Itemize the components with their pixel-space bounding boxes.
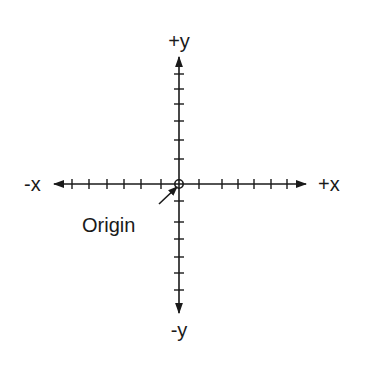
pos-x-label: +x bbox=[318, 173, 340, 195]
origin-label: Origin bbox=[82, 214, 135, 236]
neg-y-label: -y bbox=[171, 319, 188, 341]
pos-y-label: +y bbox=[168, 30, 190, 52]
coordinate-axes-diagram: +y -y -x +x Origin bbox=[0, 0, 368, 368]
neg-x-label: -x bbox=[24, 173, 41, 195]
